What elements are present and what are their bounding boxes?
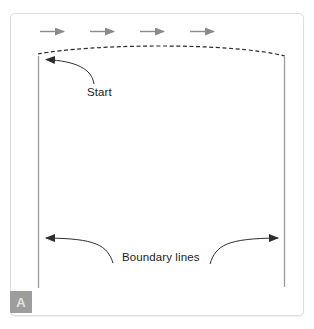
figure-panel: Start Boundary lines A xyxy=(0,0,314,329)
left-boundary-annotation-arrow xyxy=(46,238,113,263)
right-boundary-annotation-arrow xyxy=(210,238,278,264)
start-label: Start xyxy=(87,86,112,99)
mowing-boundary-diagram xyxy=(0,0,314,329)
boundary-lines-label: Boundary lines xyxy=(122,251,199,264)
start-annotation-arrow xyxy=(46,60,94,85)
dashed-top-path xyxy=(38,46,285,56)
panel-label-badge: A xyxy=(10,291,32,313)
